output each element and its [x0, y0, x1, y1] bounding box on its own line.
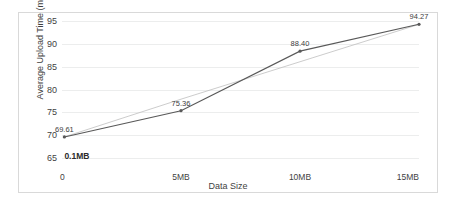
data-point-marker	[298, 50, 301, 53]
plot-area: 65707580859095 05MB10MB15MB 69.6175.3688…	[62, 21, 419, 158]
chart-frame: Average Upload Time (ms) 65707580859095 …	[18, 12, 438, 193]
series-lines	[62, 21, 419, 158]
y-axis-title: Average Upload Time (ms)	[35, 0, 45, 111]
data-point-label: 75.36	[172, 99, 191, 108]
gridline	[62, 158, 419, 159]
data-point-marker	[417, 23, 420, 26]
y-axis-tick-label: 85	[47, 62, 57, 72]
data-point-label: 69.61	[55, 125, 74, 134]
y-axis-tick-label: 75	[47, 107, 57, 117]
data-point-label: 88.40	[291, 39, 310, 48]
first-point-annotation: 0.1MB	[64, 151, 89, 161]
data-point-marker	[179, 109, 182, 112]
y-axis-tick-label: 80	[47, 85, 57, 95]
data-point-marker	[63, 135, 66, 138]
data-point-label: 94.27	[410, 12, 429, 21]
y-axis-tick-label: 95	[47, 16, 57, 26]
y-axis-tick-label: 90	[47, 39, 57, 49]
y-axis-tick-label: 65	[47, 153, 57, 163]
x-axis-title: Data Size	[19, 181, 437, 191]
